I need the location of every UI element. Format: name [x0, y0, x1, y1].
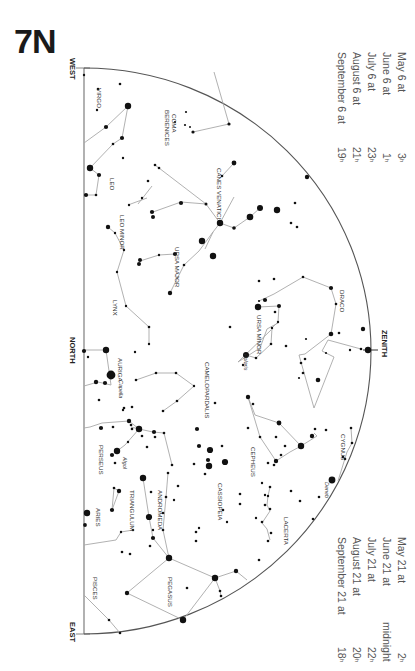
constellation-label: CAMELOPARDALIS	[204, 362, 211, 418]
constellation-label: VIRGO	[96, 88, 103, 108]
constellation-label: AURIGA	[117, 358, 124, 383]
constellation-label: PISCES	[92, 577, 99, 600]
label-west: WEST	[68, 58, 77, 80]
star-label: Deneb	[324, 482, 330, 498]
constellation-label: COMA	[171, 114, 178, 133]
star-label: Capella	[118, 380, 124, 398]
constellation-label: ANDROMEDA	[157, 490, 164, 531]
star-label: Polaris	[243, 354, 249, 371]
label-north: NORTH	[68, 337, 77, 364]
constellation-label: LEO MINOR	[119, 215, 126, 250]
constellation-label: URSA MAJOR	[174, 247, 181, 288]
label-zenith: ZENITH	[380, 330, 389, 357]
constellation-label: TRIANGULUM	[129, 490, 136, 531]
constellation-label: CASSIOPEIA	[217, 483, 224, 521]
constellation-label: BERENICES	[164, 110, 171, 146]
constellation-label: CANES VENATICI	[216, 168, 223, 219]
constellation-label: LYNX	[112, 300, 119, 316]
label-east: EAST	[68, 622, 77, 642]
constellation-labels: VIRGOCOMABERENICESLEOCANES VENATICILEO M…	[92, 88, 347, 607]
constellation-lines	[84, 72, 361, 633]
constellation-label: URSA MINOR	[256, 315, 263, 355]
constellation-label: DRACO	[339, 290, 346, 313]
star-label: Algol	[122, 456, 128, 470]
constellation-label: CYGNUS	[340, 434, 347, 460]
constellation-label: LEO	[109, 178, 116, 191]
constellation-label: ARIES	[95, 508, 102, 527]
sky-dome-arc	[84, 68, 371, 634]
constellation-label: PEGASUS	[167, 577, 174, 607]
constellation-label: PERSEUS	[98, 445, 105, 475]
constellation-label: CEPHEUS	[250, 447, 257, 477]
star-chart: WEST NORTH EAST ZENITH	[0, 0, 415, 671]
constellation-label: LACERTA	[283, 517, 290, 546]
